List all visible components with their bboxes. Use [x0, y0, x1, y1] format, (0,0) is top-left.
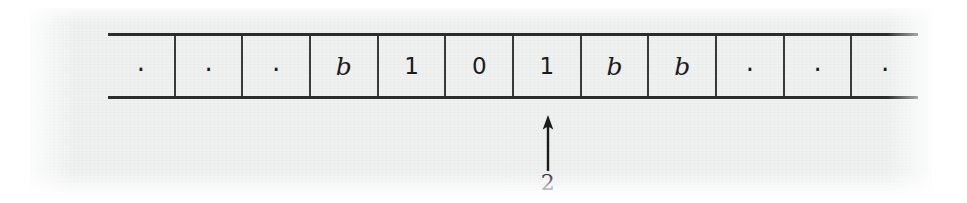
tape-cell: 0 — [446, 36, 514, 96]
tape-cell-symbol: 1 — [540, 55, 555, 78]
tape-cell-list: ...b101bb... — [108, 36, 918, 96]
tape-cell-symbol: 0 — [472, 55, 487, 78]
tape-cell: b — [582, 36, 650, 96]
tape-cell-symbol: . — [813, 49, 821, 75]
tape-cell-symbol: b — [674, 54, 690, 79]
tape-cell: . — [108, 36, 176, 96]
tape-cell-symbol: . — [137, 49, 145, 75]
tape-cell: . — [243, 36, 311, 96]
tape-cell: 1 — [514, 36, 582, 96]
tape-cell-symbol: . — [881, 49, 889, 75]
tape-cell-symbol: 1 — [404, 55, 419, 78]
tape-figure: ...b101bb... 2 — [0, 0, 967, 203]
tape-cell-symbol: . — [204, 49, 212, 75]
turing-tape: ...b101bb... — [108, 33, 918, 99]
scanned-paper: ...b101bb... 2 — [30, 8, 932, 194]
tape-cell: . — [785, 36, 853, 96]
tape-cell: . — [717, 36, 785, 96]
tape-cell-symbol: . — [272, 49, 280, 75]
up-arrow-icon — [537, 114, 559, 172]
tape-cell-symbol: . — [746, 49, 754, 75]
tape-cell: . — [176, 36, 244, 96]
tape-cell-symbol: b — [607, 54, 623, 79]
tape-head-pointer: 2 — [537, 114, 559, 202]
tape-cell: b — [311, 36, 379, 96]
tape-cell: . — [852, 36, 918, 96]
tape-bottom-rail — [108, 96, 918, 99]
tape-cell-symbol: b — [336, 54, 352, 79]
tape-cell: 1 — [379, 36, 447, 96]
tape-cell: b — [649, 36, 717, 96]
tape-head-label: 2 — [537, 172, 559, 194]
